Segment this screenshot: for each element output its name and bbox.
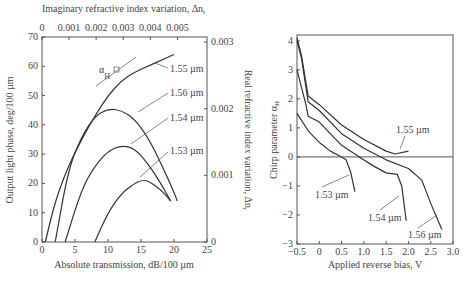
svg-text:0: 0	[211, 236, 216, 247]
arrow-r-1-56	[418, 215, 437, 228]
svg-text:50: 50	[28, 90, 38, 101]
left-chart: 0510152025 010203040506070 00.0010.0020.…	[4, 3, 254, 270]
curve-1.56 µm	[55, 109, 177, 242]
svg-text:−2: −2	[282, 209, 293, 220]
left-x-axis-label: Absolute transmission, dB/100 µm	[54, 259, 194, 270]
svg-text:0.001: 0.001	[211, 169, 234, 180]
left-label-1-55: 1.55 µm	[170, 63, 204, 74]
svg-text:40: 40	[28, 119, 38, 130]
left-curves	[45, 55, 177, 242]
arrow-1-56	[138, 93, 168, 112]
svg-text:60: 60	[28, 60, 38, 71]
curve-1.53 µm	[297, 113, 355, 191]
svg-text:0.003: 0.003	[112, 22, 135, 33]
svg-text:10: 10	[103, 244, 113, 255]
right-label-1-56: 1.56 µm	[408, 229, 442, 240]
svg-text:0.5: 0.5	[335, 246, 348, 257]
right-label-1-55: 1.55 µm	[396, 124, 430, 135]
left-top-axis-label: Imaginary refractive index variation, Δn…	[42, 3, 205, 16]
svg-text:70: 70	[28, 31, 38, 42]
right-label-1-54: 1.54 µm	[368, 212, 402, 223]
arrow-1-55	[155, 63, 168, 68]
svg-text:−1: −1	[282, 180, 293, 191]
left-right-ticks: 00.0010.0020.003	[204, 36, 234, 247]
svg-text:−3: −3	[282, 238, 293, 249]
curve-1.56 µm	[297, 41, 442, 230]
svg-text:4: 4	[288, 35, 293, 46]
right-x-ticks: −0.500.51.01.52.02.53.0	[288, 241, 459, 257]
left-label-1-56: 1.56 µm	[170, 87, 204, 98]
svg-text:2.0: 2.0	[402, 246, 415, 257]
svg-text:0: 0	[317, 246, 322, 257]
svg-text:1.0: 1.0	[358, 246, 371, 257]
svg-text:0: 0	[40, 244, 45, 255]
svg-text:0.005: 0.005	[166, 22, 189, 33]
arrow-r-1-55	[400, 136, 405, 149]
curve-1.54 µm	[65, 146, 171, 242]
svg-text:1.5: 1.5	[380, 246, 393, 257]
svg-text:0.003: 0.003	[211, 36, 234, 47]
svg-text:0: 0	[33, 236, 38, 247]
left-y2-axis-label: Real refractive index variation, Δnr	[241, 70, 254, 211]
curve-1.55 µm	[45, 55, 174, 242]
svg-text:0: 0	[288, 151, 293, 162]
svg-text:10: 10	[28, 207, 38, 218]
curve-1.54 µm	[297, 70, 406, 221]
right-chart: −0.500.51.01.52.02.53.0 −3−2−101234 Appl…	[268, 35, 459, 270]
curve-1.53 µm	[95, 181, 171, 243]
svg-text:20: 20	[169, 244, 179, 255]
left-label-1-53: 1.53 µm	[170, 145, 204, 156]
left-y-axis-label: Output light phase, deg/100 µm	[4, 76, 15, 203]
svg-text:20: 20	[28, 177, 38, 188]
svg-text:0.002: 0.002	[85, 22, 108, 33]
left-label-1-54: 1.54 µm	[170, 112, 204, 123]
svg-text:0.001: 0.001	[58, 22, 81, 33]
svg-text:2: 2	[288, 93, 293, 104]
svg-text:15: 15	[136, 244, 146, 255]
svg-text:2.5: 2.5	[424, 246, 437, 257]
right-y-axis-label: Chirp parameter αH	[268, 101, 281, 179]
right-x-axis-label: Applied reverse bias, V	[328, 259, 423, 270]
right-label-1-53: 1.53 µm	[315, 189, 349, 200]
svg-text:0.002: 0.002	[211, 103, 234, 114]
svg-text:1: 1	[288, 122, 293, 133]
svg-text:3.0: 3.0	[447, 246, 460, 257]
svg-text:0.004: 0.004	[139, 22, 162, 33]
arrow-r-1-53	[322, 175, 349, 187]
alpha-h-label: αH	[99, 64, 110, 81]
svg-text:0: 0	[40, 22, 45, 33]
figure: 0510152025 010203040506070 00.0010.0020.…	[0, 0, 471, 282]
svg-text:5: 5	[73, 244, 78, 255]
arrow-r-1-54	[380, 196, 399, 210]
svg-text:3: 3	[288, 64, 293, 75]
svg-text:30: 30	[28, 148, 38, 159]
